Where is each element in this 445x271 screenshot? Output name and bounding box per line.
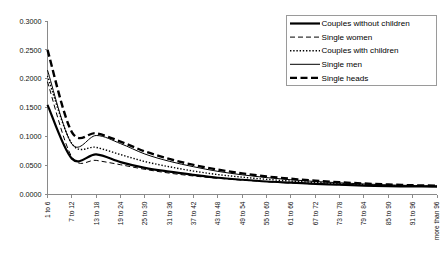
series-line	[48, 70, 438, 186]
x-tick-label: 19 to 24	[117, 201, 124, 225]
x-axis-labels: 1 to 67 to 1213 to 1819 to 2425 to 3031 …	[44, 201, 441, 240]
series-line	[48, 76, 438, 186]
x-tick-label: 43 to 48	[214, 201, 221, 225]
x-tick-label: 73 to 78	[336, 201, 343, 225]
y-tick-label: 0.0000	[20, 190, 42, 199]
legend-label: Single heads	[322, 74, 369, 83]
legend-label: Single men	[322, 60, 363, 69]
x-tick-label: more than 96	[433, 201, 440, 240]
y-tick-label: 0.1000	[20, 132, 42, 141]
legend-label: Couples with children	[322, 46, 399, 55]
chart-canvas: 0.00000.05000.10000.15000.20000.25000.30…	[0, 0, 445, 271]
x-tick-label: 79 to 84	[360, 201, 367, 225]
x-tick-label: 37 to 42	[190, 201, 197, 225]
line-chart: 0.00000.05000.10000.15000.20000.25000.30…	[0, 0, 445, 271]
y-tick-label: 0.0500	[20, 161, 42, 170]
x-tick-label: 13 to 18	[93, 201, 100, 225]
y-tick-label: 0.1500	[20, 103, 42, 112]
x-tick-label: 85 to 90	[385, 201, 392, 225]
x-tick-label: 31 to 36	[166, 201, 173, 225]
legend-label: Couples without children	[322, 19, 410, 28]
x-tick-label: 25 to 30	[141, 201, 148, 225]
x-tick-label: 91 to 96	[409, 201, 416, 225]
y-tick-label: 0.2500	[20, 46, 42, 55]
x-tick-label: 1 to 6	[44, 201, 51, 218]
x-tick-label: 67 to 72	[312, 201, 319, 225]
x-tick-label: 55 to 60	[263, 201, 270, 225]
series-line	[48, 82, 438, 187]
y-tick-label: 0.3000	[20, 17, 42, 26]
y-tick-label: 0.2000	[20, 74, 42, 83]
y-axis-labels: 0.00000.05000.10000.15000.20000.25000.30…	[20, 17, 42, 200]
chart-legend: Couples without childrenSingle womenCoup…	[287, 16, 437, 86]
x-tick-label: 7 to 12	[68, 201, 75, 221]
x-tick-label: 61 to 66	[287, 201, 294, 225]
legend-label: Single women	[322, 33, 373, 42]
x-tick-label: 49 to 54	[239, 201, 246, 225]
